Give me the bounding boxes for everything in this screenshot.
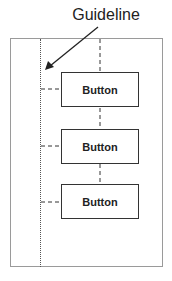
button-2[interactable]: Button: [61, 129, 139, 164]
arrow-icon: [45, 27, 98, 70]
button-1[interactable]: Button: [61, 72, 139, 107]
button-3[interactable]: Button: [61, 184, 139, 219]
